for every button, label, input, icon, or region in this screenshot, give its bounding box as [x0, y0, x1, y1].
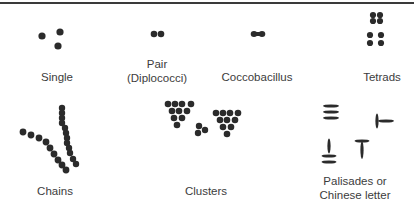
label-single-line-1: Single — [41, 70, 73, 84]
label-tetrads: Tetrads — [363, 70, 401, 84]
label-clusters: Clusters — [185, 184, 227, 198]
label-coccobacillus-line-1: Coccobacillus — [222, 70, 293, 84]
label-tetrads-line-1: Tetrads — [363, 70, 401, 84]
tetrads-icon — [367, 12, 384, 46]
label-clusters-line-1: Clusters — [185, 184, 227, 198]
label-single: Single — [41, 70, 73, 84]
coccobacillus-icon — [251, 31, 266, 37]
label-palisades-line-2: Chinese letter — [320, 188, 391, 202]
palisades-icon — [322, 104, 395, 163]
chains-icon — [20, 105, 80, 174]
label-pair-line-2: (Diplococci) — [127, 71, 187, 85]
label-chains-line-1: Chains — [37, 184, 73, 198]
label-coccobacillus: Coccobacillus — [222, 70, 293, 84]
label-pair-line-1: Pair — [127, 57, 187, 71]
diplococci-icon — [151, 31, 165, 38]
clusters-icon — [165, 101, 242, 138]
single-cocci-icon — [38, 28, 63, 49]
label-palisades-line-1: Palisades or — [320, 174, 391, 188]
label-palisades: Palisades or Chinese letter — [320, 174, 391, 202]
label-chains: Chains — [37, 184, 73, 198]
label-pair: Pair (Diplococci) — [127, 57, 187, 85]
